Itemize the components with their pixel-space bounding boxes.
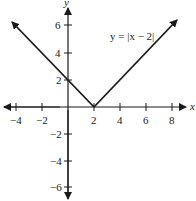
graph-canvas: x y −4 −2 2 4 6 8 6 4 2 −2 −4 −6 — [0, 0, 196, 201]
y-tick-labels: 6 4 2 −2 −4 −6 — [50, 19, 62, 193]
equation-label: y = |x − 2| — [110, 30, 154, 42]
x-tick-labels: −4 −2 2 4 6 8 — [10, 114, 175, 126]
svg-text:4: 4 — [55, 47, 61, 59]
svg-text:4: 4 — [117, 114, 123, 126]
left-branch — [12, 22, 94, 107]
svg-text:2: 2 — [56, 74, 62, 86]
svg-text:−2: −2 — [36, 114, 48, 126]
svg-text:−4: −4 — [10, 114, 22, 126]
svg-text:−2: −2 — [50, 128, 62, 140]
svg-text:−4: −4 — [50, 155, 62, 167]
y-axis-label: y — [63, 0, 69, 8]
svg-text:6: 6 — [143, 114, 149, 126]
svg-text:−6: −6 — [50, 181, 62, 193]
svg-text:8: 8 — [169, 114, 175, 126]
x-axis-label: x — [189, 100, 195, 112]
svg-text:2: 2 — [91, 114, 97, 126]
svg-text:6: 6 — [55, 19, 61, 31]
